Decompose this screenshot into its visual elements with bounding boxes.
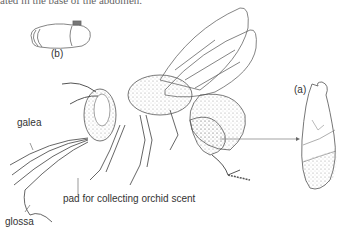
glossa-label: glossa [5,216,34,227]
panel-b-label: (b) [51,48,63,59]
pad-label: pad for collecting orchid scent [63,193,195,204]
galea-label: galea [17,117,41,128]
thorax [128,75,192,115]
panel-a-label: (a) [294,84,306,95]
inset-b-drawing [31,21,90,48]
inset-a-drawing [302,82,337,189]
mouthparts [10,138,88,222]
